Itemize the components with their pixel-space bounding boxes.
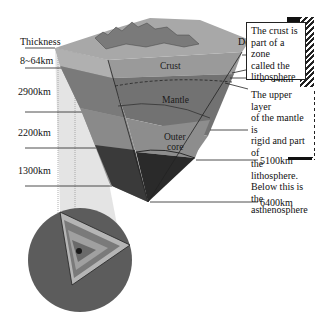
- callout-2-line: asthenosphere: [251, 204, 311, 216]
- outer-core-label-2: core: [167, 142, 183, 152]
- callout-2-line: the lithosphere.: [251, 158, 311, 181]
- callout-1-line: The crust is: [251, 25, 301, 37]
- thickness-header: Thickness: [20, 36, 61, 47]
- callout-crust-lithosphere: The crust is part of a zone called the l…: [246, 22, 306, 80]
- globe-cutaway: [28, 208, 132, 312]
- callout-1-line: called the: [251, 60, 301, 72]
- callout-1-line: part of a zone: [251, 37, 301, 60]
- outer-core-label-1: Outer: [164, 132, 186, 142]
- callout-2-line: rigid and part of: [251, 135, 311, 158]
- callout-2-line: Below this is the: [251, 181, 311, 204]
- thickness-mantle: 2900km: [18, 86, 51, 97]
- mantle-label: Mantle: [162, 95, 189, 105]
- thickness-outer-core: 2200km: [18, 127, 51, 138]
- callout-mantle-asthenosphere: The upper layer of the mantle is rigid a…: [248, 87, 314, 157]
- thickness-inner-core: 1300km: [18, 165, 51, 176]
- callout-2-line: The upper layer: [251, 89, 311, 112]
- callout-1-line: lithosphere: [251, 71, 301, 83]
- thickness-crust: 8~64km: [20, 55, 53, 66]
- callout-2-line: of the mantle is: [251, 112, 311, 135]
- crust-label: Crust: [160, 61, 181, 71]
